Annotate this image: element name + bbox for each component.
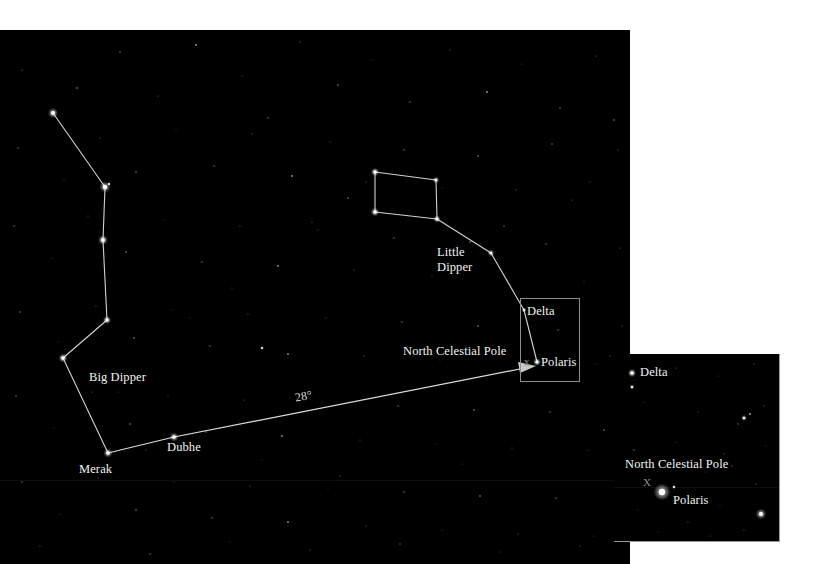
star-chart-figure: Big Dipper Merak Dubhe 28° Little Dipper… xyxy=(0,0,816,564)
main-sky-image: Big Dipper Merak Dubhe 28° Little Dipper… xyxy=(0,30,630,564)
inset-detail-panel: Delta North Celestial Pole X Polaris xyxy=(614,354,780,542)
inset-starfield xyxy=(614,354,780,542)
image-seam xyxy=(0,480,630,481)
main-sky-starfield xyxy=(0,30,630,564)
